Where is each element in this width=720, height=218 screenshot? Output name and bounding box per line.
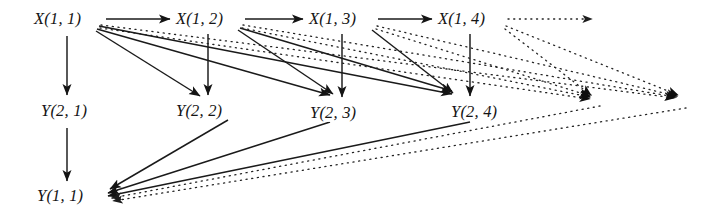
node-label-y22: Y(2, 2) xyxy=(175,101,223,120)
edge-x12-offscreen-b xyxy=(243,25,676,97)
edge-x11-offscreen-a xyxy=(100,28,590,99)
graph-edges xyxy=(0,0,720,218)
edge-x11-y23 xyxy=(97,29,330,95)
node-label-y24: Y(2, 4) xyxy=(450,102,498,121)
edge-x11-offscreen-b xyxy=(101,25,675,98)
edge-x12-y23 xyxy=(238,30,333,94)
edge-y22-y11 xyxy=(110,120,228,189)
node-label-x13: X(1, 3) xyxy=(308,9,357,28)
node-label-y11: Y(1, 1) xyxy=(36,186,84,205)
node-label-x12: X(1, 2) xyxy=(175,9,224,28)
node-label-y21: Y(2, 1) xyxy=(40,101,88,120)
edge-x14-offscreen-a xyxy=(505,29,591,95)
node-label-x14: X(1, 4) xyxy=(437,9,486,28)
node-label-y23: Y(2, 3) xyxy=(309,103,357,122)
diagram-canvas: X(1, 1) X(1, 2) X(1, 3) X(1, 4) Y(2, 1) … xyxy=(0,0,720,218)
edge-offscreen-b-y11 xyxy=(113,108,686,201)
node-label-x11: X(1, 1) xyxy=(33,9,82,28)
solid-edges xyxy=(67,19,470,196)
edge-x14-offscreen-b xyxy=(506,26,678,95)
edge-x13-offscreen-b xyxy=(377,26,677,96)
